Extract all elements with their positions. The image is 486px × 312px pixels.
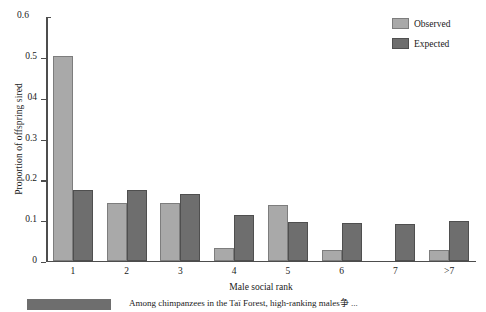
bar-chart-figure: Proportion of offspring sired 00.10.20.3… <box>0 0 486 312</box>
bar-observed-rank-6 <box>322 250 342 261</box>
bar-observed-rank-3 <box>160 203 180 261</box>
y-axis-tick: 0.6 <box>46 17 51 18</box>
bar-observed-rank-1 <box>53 56 73 261</box>
caption-swatch <box>27 299 111 310</box>
y-axis-tick: 0.3 <box>41 140 46 141</box>
legend-swatch-observed <box>392 18 409 29</box>
bar-observed-rank-2 <box>107 203 127 261</box>
figure-caption: Among chimpanzees in the Taï Forest, hig… <box>0 297 486 312</box>
y-axis-tick-label: 0.2 <box>25 173 37 183</box>
y-axis-tick: 0 <box>41 262 46 263</box>
x-axis-tick-label: >7 <box>444 266 454 276</box>
x-axis-tick-label: 1 <box>71 266 76 276</box>
y-axis-tick: 0.2 <box>41 180 46 181</box>
y-axis-tick-label: 0.1 <box>25 214 37 224</box>
bar-expected-rank-4 <box>234 215 254 261</box>
y-axis-title: Proportion of offspring sired <box>14 44 24 234</box>
y-axis-tick-label: 0.6 <box>17 10 29 20</box>
bar-expected-rank-5 <box>288 222 308 261</box>
bar-expected-rank-2 <box>127 190 147 261</box>
y-axis-tick: 0.1 <box>41 221 46 222</box>
y-axis-tick: 04 <box>41 99 46 100</box>
bar-expected-rank-1 <box>73 190 93 261</box>
caption-text: Among chimpanzees in the Taï Forest, hig… <box>129 297 358 309</box>
x-axis-tick-label: 4 <box>232 266 237 276</box>
y-axis-tick-label: 0 <box>32 255 37 265</box>
x-axis-tick-label: 2 <box>124 266 129 276</box>
x-axis-tick-label: 7 <box>393 266 398 276</box>
bar-expected-rank->7 <box>449 221 469 261</box>
y-axis-tick-label: 04 <box>28 92 38 102</box>
y-axis-line <box>46 17 48 262</box>
legend-item-expected: Expected <box>392 38 450 49</box>
y-axis-tick-label: 0.3 <box>25 133 37 143</box>
chart-legend: ObservedExpected <box>392 18 450 58</box>
legend-item-observed: Observed <box>392 18 450 29</box>
bar-expected-rank-7 <box>395 224 415 261</box>
bar-expected-rank-3 <box>180 194 200 261</box>
bar-expected-rank-6 <box>342 223 362 261</box>
y-axis-tick: 0.5 <box>41 58 46 59</box>
bar-observed-rank-5 <box>268 205 288 261</box>
x-axis-title: Male social rank <box>46 282 476 292</box>
bar-observed-rank->7 <box>429 250 449 261</box>
legend-swatch-expected <box>392 38 409 49</box>
bar-observed-rank-4 <box>214 248 234 261</box>
x-axis-tick-label: 6 <box>339 266 344 276</box>
legend-label: Expected <box>414 39 449 49</box>
x-axis-tick-label: 3 <box>178 266 183 276</box>
legend-label: Observed <box>414 19 450 29</box>
y-axis-tick-label: 0.5 <box>25 51 37 61</box>
x-axis-tick-label: 5 <box>286 266 291 276</box>
